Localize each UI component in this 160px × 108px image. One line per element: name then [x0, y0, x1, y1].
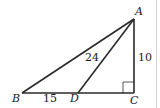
triangle-diagram: A B D C 15 24 10 — [0, 0, 160, 108]
vertex-label-d: D — [69, 92, 79, 105]
measure-bd: 15 — [43, 92, 57, 105]
vertex-label-b: B — [11, 92, 20, 105]
vertex-label-c: C — [130, 94, 139, 107]
vertex-label-a: A — [134, 5, 143, 18]
measure-ac: 10 — [138, 51, 152, 64]
segment-ab — [22, 19, 134, 93]
measure-ad: 24 — [85, 51, 99, 64]
right-angle-marker — [123, 82, 134, 93]
